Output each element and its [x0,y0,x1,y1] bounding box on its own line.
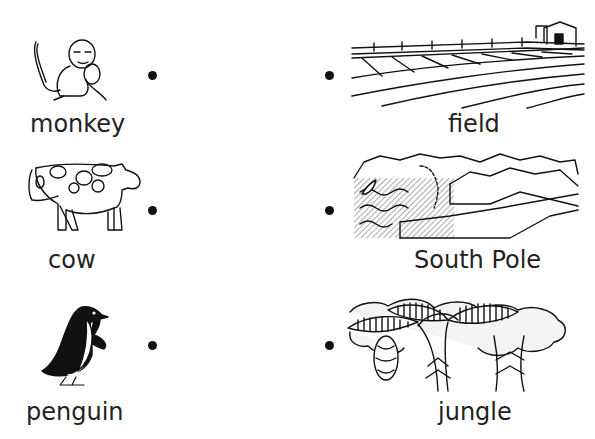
monkey-icon [30,30,115,105]
cow-icon [22,158,144,240]
jungle-icon [348,296,573,391]
field-label: field [448,112,500,136]
south-pole-label: South Pole [414,248,541,272]
match-dot-south-pole[interactable] [325,206,334,215]
match-dot-penguin[interactable] [148,341,157,350]
field-icon [352,18,587,108]
penguin-label: penguin [26,400,124,424]
cow-label: cow [48,248,96,272]
jungle-label: jungle [438,400,512,424]
penguin-icon [38,305,113,390]
match-dot-monkey[interactable] [148,71,157,80]
south-pole-icon [350,152,580,238]
match-dot-jungle[interactable] [325,341,334,350]
match-dot-field[interactable] [325,71,334,80]
match-dot-cow[interactable] [148,206,157,215]
monkey-label: monkey [30,112,125,136]
